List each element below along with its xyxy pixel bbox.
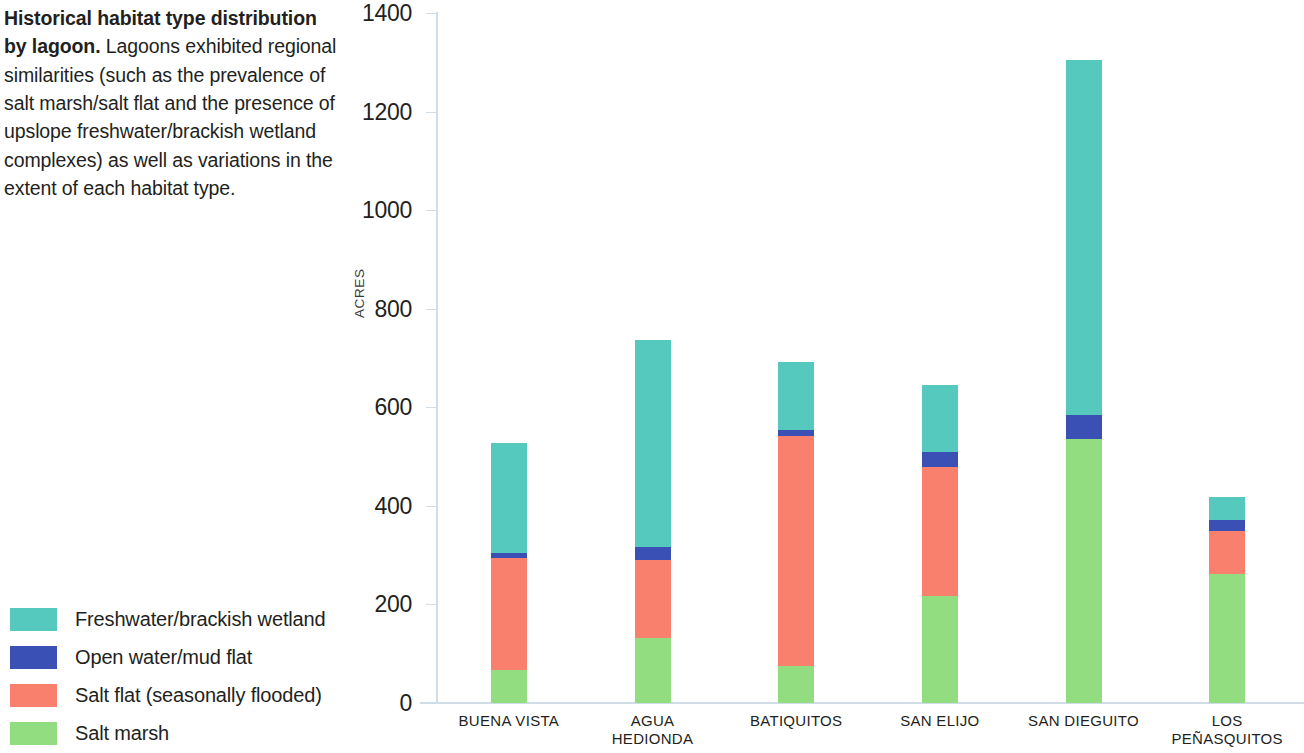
bar-segment [635,547,671,560]
bar-segment [491,443,527,553]
y-axis-tick-label: 1400 [300,0,412,27]
bar-segment [922,467,958,596]
y-axis-tick-label: 600 [300,394,412,421]
legend-item-label: Salt marsh [75,722,169,745]
y-axis-tick-mark [426,407,437,408]
y-axis-tick-label: 1200 [300,98,412,125]
bar-segment [778,666,814,703]
y-axis-tick-mark [426,703,437,704]
bar-segment [922,452,958,467]
y-axis-tick-mark [426,506,437,507]
legend-color-swatch [10,722,57,745]
x-axis-tick-label: SAN ELIJO [900,712,979,730]
bar-stack [1209,497,1245,703]
bar-segment [1066,60,1102,415]
x-axis-tick-label: BUENA VISTA [459,712,560,730]
legend-item: Salt flat (seasonally flooded) [10,676,370,714]
bar-segment [1209,497,1245,520]
bar-stack [635,340,671,703]
legend-item: Freshwater/brackish wetland [10,600,370,638]
bar-segment [778,362,814,430]
bar-segment [491,670,527,703]
bar-segment [635,560,671,638]
bar-segment [778,436,814,666]
legend-color-swatch [10,684,57,707]
bar-segment [635,638,671,703]
y-axis-tick-mark [426,604,437,605]
y-axis-tick-label: 1000 [300,197,412,224]
y-axis-tick-mark [426,112,437,113]
chart-legend: Freshwater/brackish wetlandOpen water/mu… [10,600,370,752]
x-axis-tick-label: AGUA HEDIONDA [612,712,694,747]
bar-segment [922,385,958,452]
y-axis-tick-label: 800 [300,295,412,322]
y-axis-tick-mark [426,210,437,211]
legend-color-swatch [10,646,57,669]
legend-item-label: Salt flat (seasonally flooded) [75,684,322,707]
y-axis-tick-mark [426,309,437,310]
bar-stack [491,443,527,703]
y-axis-tick-mark [426,13,437,14]
x-axis-tick-label: SAN DIEGUITO [1028,712,1139,730]
bar-segment [1066,439,1102,703]
legend-item: Salt marsh [10,714,370,752]
bar-segment [1066,415,1102,440]
plot-area [437,13,1299,703]
bar-stack [922,385,958,703]
bar-segment [922,596,958,703]
bar-stack [778,362,814,703]
y-axis-tick-label: 400 [300,492,412,519]
x-axis-tick-label: LOS PEÑASQUITOS [1171,712,1282,747]
bar-segment [1209,574,1245,703]
legend-color-swatch [10,608,57,631]
bar-segment [1209,520,1245,531]
legend-item-label: Open water/mud flat [75,646,252,669]
bar-segment [491,558,527,670]
bar-stack [1066,60,1102,703]
bar-segment [1209,531,1245,574]
bar-segment [635,340,671,547]
legend-item-label: Freshwater/brackish wetland [75,608,326,631]
x-axis-tick-label: BATIQUITOS [750,712,842,730]
legend-item: Open water/mud flat [10,638,370,676]
